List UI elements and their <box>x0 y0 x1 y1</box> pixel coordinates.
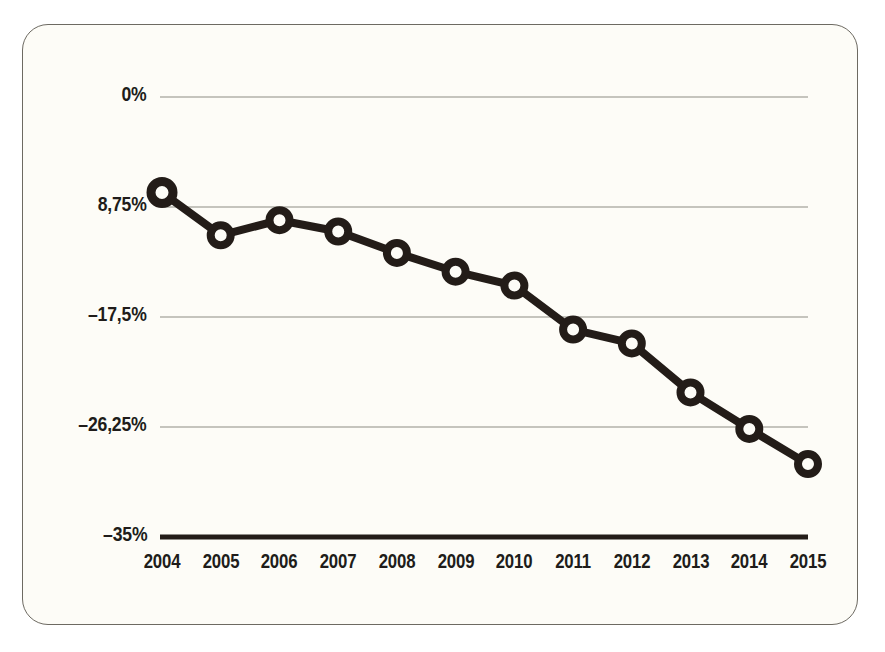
data-point-marker <box>622 333 642 353</box>
x-axis-tick-label: 2004 <box>133 550 191 573</box>
x-axis-tick-label: 2013 <box>661 550 719 573</box>
data-point-marker <box>446 262 466 282</box>
y-axis-tick-label: 8,75% <box>98 193 147 216</box>
data-point-marker <box>211 225 231 245</box>
gridlines-group <box>160 97 808 537</box>
data-point-marker <box>681 382 701 402</box>
data-point-marker <box>504 276 524 296</box>
x-axis-tick-label: 2006 <box>250 550 308 573</box>
x-axis-tick-label: 2008 <box>368 550 426 573</box>
x-axis-tick-label: 2009 <box>426 550 484 573</box>
data-point-marker <box>798 454 818 474</box>
y-axis-tick-label: 0% <box>122 83 147 106</box>
x-axis-tick-label: 2012 <box>603 550 661 573</box>
y-axis-tick-label: –17,5% <box>88 303 147 326</box>
x-axis-tick-label: 2014 <box>720 550 778 573</box>
x-axis-tick-label: 2011 <box>544 550 602 573</box>
x-axis-tick-label: 2015 <box>779 550 837 573</box>
x-axis-tick-label: 2010 <box>485 550 543 573</box>
data-point-marker <box>151 182 173 204</box>
data-point-marker <box>563 320 583 340</box>
y-axis-tick-label: –26,25% <box>79 413 147 436</box>
x-axis-tick-label: 2005 <box>191 550 249 573</box>
data-point-marker <box>739 419 759 439</box>
data-point-marker <box>270 210 290 230</box>
x-axis-tick-label: 2007 <box>309 550 367 573</box>
data-point-marker <box>387 243 407 263</box>
data-line-group <box>162 193 808 465</box>
y-axis-tick-label: –35% <box>103 523 147 546</box>
data-line <box>162 193 808 465</box>
data-point-marker <box>328 222 348 242</box>
